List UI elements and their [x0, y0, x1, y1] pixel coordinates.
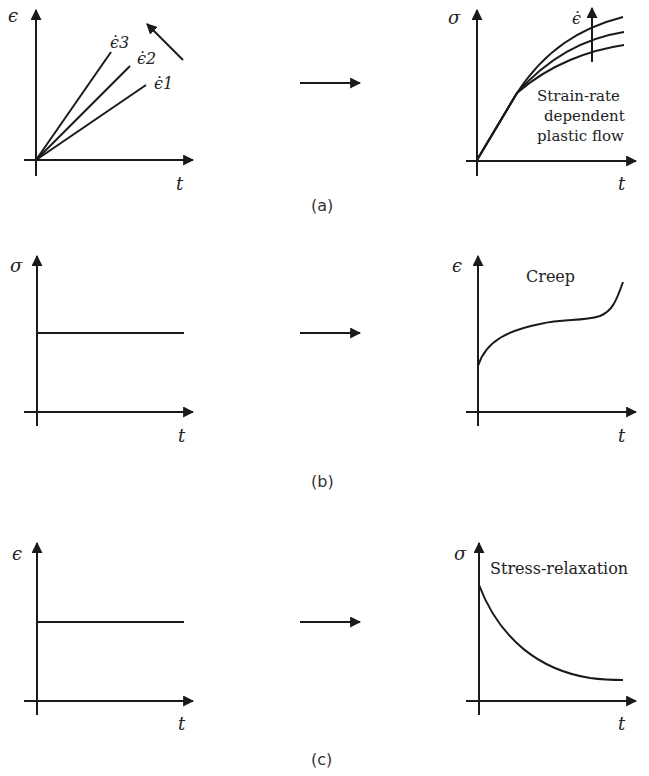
panel-b-creep-output-plot: ϵ t Creep [452, 255, 636, 446]
y-axis-label: ϵ [8, 5, 18, 26]
strain-rate-line-1 [36, 85, 146, 160]
strain-rate-line-3 [36, 52, 111, 160]
panel-caption: (b) [311, 472, 334, 491]
creep-annotation: Creep [526, 267, 575, 286]
strain-rate-label-1: ϵ̇1 [154, 74, 173, 93]
panel-c-strain-input-plot: ϵ t [12, 543, 193, 734]
material-response-diagram: ϵ t ϵ̇3 ϵ̇2 ϵ̇1 σ t ϵ̇ Strain-rate depen… [0, 0, 649, 776]
creep-curve [478, 282, 623, 366]
strain-rate-line-2 [36, 66, 130, 160]
panel-b: σ t ϵ t Creep (b) [10, 255, 636, 491]
x-axis-label: t [176, 173, 184, 194]
y-axis-label: ϵ [452, 255, 462, 276]
strain-rate-label-2: ϵ̇2 [137, 49, 156, 68]
panel-b-stress-input-plot: σ t [10, 255, 193, 446]
x-axis-label: t [618, 173, 626, 194]
x-axis-label: t [178, 425, 186, 446]
annotation-line-2: dependent [544, 107, 625, 125]
panel-c-relaxation-output-plot: σ t Stress-relaxation [454, 543, 636, 734]
strain-rate-arrow-label: ϵ̇ [572, 9, 581, 28]
strain-rate-label-3: ϵ̇3 [110, 33, 129, 52]
panel-a-strain-input-plot: ϵ t ϵ̇3 ϵ̇2 ϵ̇1 [8, 5, 193, 194]
x-axis-label: t [618, 713, 626, 734]
y-axis-label: σ [454, 543, 467, 564]
panel-a-stress-output-plot: σ t ϵ̇ Strain-rate dependent plastic flo… [448, 7, 636, 194]
y-axis-label: σ [10, 255, 23, 276]
annotation-line-3: plastic flow [537, 127, 624, 145]
x-axis-label: t [618, 425, 626, 446]
panel-c: ϵ t σ t Stress-relaxation (c) [12, 543, 636, 769]
y-axis-label: ϵ [12, 543, 22, 564]
panel-a: ϵ t ϵ̇3 ϵ̇2 ϵ̇1 σ t ϵ̇ Strain-rate depen… [8, 5, 636, 215]
x-axis-label: t [178, 713, 186, 734]
stress-relaxation-annotation: Stress-relaxation [490, 559, 628, 578]
annotation-line-1: Strain-rate [537, 87, 620, 105]
panel-caption: (c) [311, 750, 332, 769]
y-axis-label: σ [448, 7, 461, 28]
stress-relaxation-curve [479, 585, 623, 680]
panel-caption: (a) [311, 196, 333, 215]
